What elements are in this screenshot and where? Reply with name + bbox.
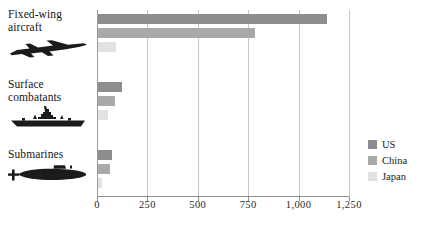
category-label: Submarines [8,148,96,161]
plot-area [97,10,349,197]
bar [98,42,116,52]
category-surface-combatants: Surface combatants [8,78,96,129]
category-label-column: Fixed-wing aircraft Surface combatants S… [0,0,97,197]
x-axis-tick-label: 1,250 [336,199,362,210]
x-axis-tick-label: 250 [139,199,156,210]
x-axis-tick-labels: 02505007501,0001,250 [97,199,349,219]
bar [98,82,122,92]
x-axis-line [97,196,349,197]
category-label: Fixed-wing aircraft [8,8,96,33]
legend-item[interactable]: US [368,137,426,151]
legend-label: China [382,155,407,166]
bar [98,164,110,174]
gridline [248,10,249,197]
legend: USChinaJapan [368,137,426,185]
x-axis-tick-label: 750 [240,199,257,210]
legend-label: US [382,139,395,150]
category-fixed-wing-aircraft: Fixed-wing aircraft [8,8,96,61]
category-submarines: Submarines [8,148,96,185]
legend-item[interactable]: Japan [368,169,426,183]
bar [98,96,115,106]
gridline [349,10,350,197]
legend-swatch [368,156,377,165]
x-axis-tick-label: 1,000 [286,199,312,210]
category-label: Surface combatants [8,78,96,103]
bar-chart: Fixed-wing aircraft Surface combatants S… [0,0,427,226]
bar [98,178,102,188]
bar [98,14,327,24]
warship-icon [8,105,88,129]
bar [98,110,108,120]
submarine-icon [8,163,88,185]
gridline [147,10,148,197]
x-axis-tick-label: 500 [189,199,206,210]
legend-swatch [368,140,377,149]
bar [98,150,112,160]
bar [98,28,255,38]
fighter-jet-icon [8,35,88,61]
gridline [299,10,300,197]
gridline [198,10,199,197]
legend-item[interactable]: China [368,153,426,167]
legend-swatch [368,172,377,181]
legend-label: Japan [382,171,406,182]
x-axis-tick-label: 0 [94,199,100,210]
